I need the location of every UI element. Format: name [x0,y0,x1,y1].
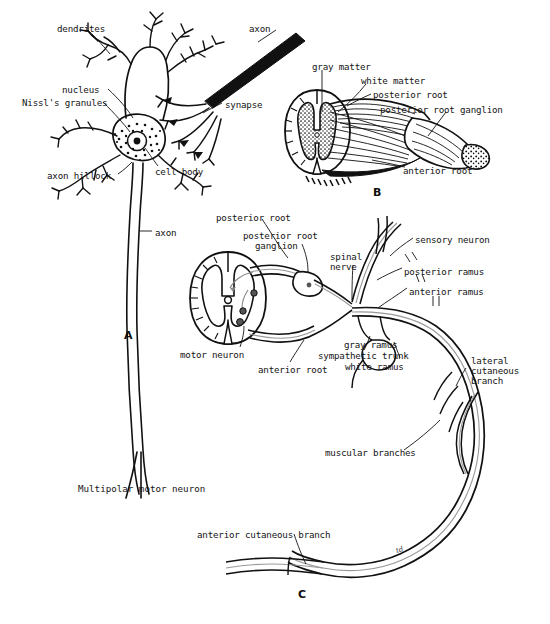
label-white-ramus: white ramus [345,362,404,373]
label-anterior-root: anterior root [403,166,472,177]
label-posterior-root-ganglion: posterior root ganglion [380,105,503,116]
central-canal-b [315,133,319,137]
label-anterior-root: anterior root [258,365,327,376]
label-dendrites: dendrites [57,24,105,35]
motor-neuron-soma-2 [237,319,244,326]
label-gray-ramus: gray ramus [344,340,397,351]
panel-letter-c: C [298,588,306,601]
nucleolus [134,138,141,145]
label-sensory-neuron: sensory neuron [415,235,490,246]
label-cell-body: cell body [155,167,203,178]
label-axon: axon [249,24,270,35]
label-nucleus: nucleus [62,85,99,96]
label-branch: branch [471,376,503,387]
label-motor-neuron: motor neuron [180,350,244,361]
label-gray-matter: gray matter [312,62,371,73]
label-axon: axon [155,228,176,239]
label-sympathetic-trunk: sympathetic trunk [318,351,409,362]
panel-a-caption: Multipolar motor neuron [78,483,205,494]
central-canal-c [225,297,232,304]
label-nerve: nerve [330,262,357,273]
label-axon-hillock: axon hillock [47,171,111,182]
label-nissl-s-granules: Nissl's granules [22,98,107,109]
motor-neuron-soma [240,308,246,314]
label-posterior-root: posterior root [216,213,291,224]
sensory-relay-soma [251,290,257,296]
label-white-matter: white matter [361,76,425,87]
label-synapse: synapse [225,100,262,111]
label-posterior-ramus: posterior ramus [404,267,484,278]
label-muscular-branches: muscular branches [325,448,416,459]
ganglion-cell-c [307,283,312,288]
panel-letter-a: A [124,329,133,342]
label-ganglion: ganglion [255,241,298,252]
label-anterior-ramus: anterior ramus [409,287,484,298]
label-anterior-cutaneous-branch: anterior cutaneous branch [197,530,330,541]
panel-letter-b: B [373,186,381,199]
label-posterior-root: posterior root [373,90,448,101]
